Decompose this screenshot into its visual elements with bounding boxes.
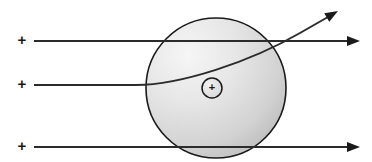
charge-label-1: + [18, 31, 27, 48]
diagram-canvas: + +++ [0, 0, 372, 162]
scattering-diagram: + +++ [0, 0, 372, 162]
nucleus-group: + [202, 78, 222, 98]
charge-label-2: + [18, 75, 27, 92]
nucleus-charge-symbol: + [209, 81, 215, 93]
charge-label-3: + [18, 137, 27, 154]
